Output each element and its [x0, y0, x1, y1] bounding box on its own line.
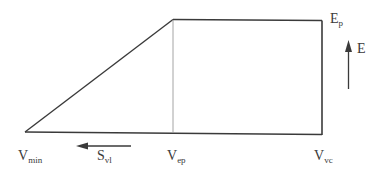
slope-line — [25, 20, 173, 133]
vvc-label-sub: vc — [324, 155, 333, 165]
svl-label-sub: vl — [105, 155, 112, 165]
svl-label-main: S — [97, 148, 105, 163]
ep-label-main: E — [330, 11, 339, 26]
vvc-label: Vvc — [314, 149, 333, 165]
baseline — [25, 132, 322, 135]
diagram-canvas: Vmin Svl Vep Vvc Ep E — [0, 0, 384, 171]
vmin-label: Vmin — [18, 149, 42, 165]
vmin-label-sub: min — [28, 155, 42, 165]
e-label-main: E — [357, 41, 366, 56]
ep-label: Ep — [330, 12, 343, 28]
vmin-label-main: V — [18, 148, 28, 163]
svl-label: Svl — [97, 149, 112, 165]
e-label: E — [357, 42, 366, 56]
ep-label-sub: p — [339, 18, 344, 28]
trapezoid-figure — [0, 0, 384, 171]
vvc-label-main: V — [314, 148, 324, 163]
top-line — [173, 20, 322, 21]
vep-label: Vep — [167, 149, 186, 165]
e-arrow-icon — [345, 40, 352, 89]
vep-label-sub: ep — [177, 155, 186, 165]
vep-label-main: V — [167, 148, 177, 163]
